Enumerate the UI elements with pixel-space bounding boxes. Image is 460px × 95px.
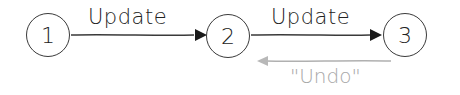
node-label: 3 [398,23,412,48]
edge-label-undo: "Undo" [290,64,361,88]
edge-update-2-3 [251,29,382,41]
state-node-1: 1 [26,13,70,57]
state-diagram: 1 2 3 Update Update "Undo" [0,0,460,95]
state-node-3: 3 [383,13,427,57]
edge-label-update-2: Update [271,5,350,29]
edge-update-1-2 [71,29,207,41]
arrowhead-icon [370,29,382,41]
edge-label-update-1: Update [88,5,167,29]
arrowhead-icon [257,56,268,66]
node-label: 1 [41,23,55,48]
node-label: 2 [221,24,235,49]
state-node-2: 2 [206,14,250,58]
